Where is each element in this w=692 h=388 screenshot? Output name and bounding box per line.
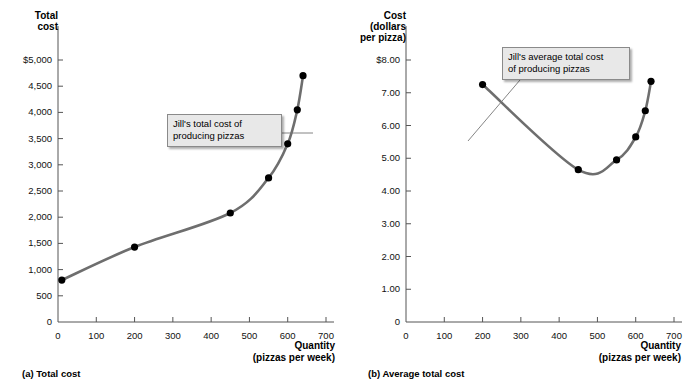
- y-tick-label: $8.00: [354, 54, 400, 65]
- y-tick-label: 2,500: [6, 185, 52, 196]
- panel-average-total-cost: Cost (dollars per pizza) Quantity (pizza…: [346, 0, 692, 388]
- x-tick-label: 400: [539, 330, 579, 341]
- x-axis-title-quantity-a: Quantity (pizzas per week): [180, 340, 335, 364]
- x-tick-label: 0: [38, 330, 78, 341]
- y-tick-label: 3.00: [354, 218, 400, 229]
- x-tick-label: 300: [153, 330, 193, 341]
- x-tick-label: 600: [616, 330, 656, 341]
- y-tick-label: 1.00: [354, 283, 400, 294]
- x-tick-label: 400: [191, 330, 231, 341]
- y-axis-title-cost: Cost (dollars per pizza): [346, 10, 406, 43]
- callout-average-total-cost: Jill's average total cost of producing p…: [502, 47, 630, 80]
- y-tick-label: 6.00: [354, 120, 400, 131]
- y-tick-label: 3,500: [6, 133, 52, 144]
- y-tick-label: 5.00: [354, 152, 400, 163]
- x-tick-label: 700: [306, 330, 346, 341]
- y-tick-label: 2,000: [6, 211, 52, 222]
- subcaption-average-total-cost: (b) Average total cost: [368, 368, 464, 379]
- x-tick-label: 300: [501, 330, 541, 341]
- y-tick-label: 4.00: [354, 185, 400, 196]
- x-tick-label: 200: [115, 330, 155, 341]
- y-tick-label: 1,500: [6, 237, 52, 248]
- y-tick-label: 4,000: [6, 106, 52, 117]
- subcaption-total-cost: (a) Total cost: [22, 368, 80, 379]
- y-tick-label: 0: [354, 316, 400, 327]
- y-axis-title-total-cost: Total cost: [2, 10, 58, 32]
- y-tick-label: 7.00: [354, 87, 400, 98]
- x-tick-label: 500: [229, 330, 269, 341]
- x-tick-label: 500: [577, 330, 617, 341]
- x-axis-title-quantity-b: Quantity (pizzas per week): [526, 340, 681, 364]
- x-tick-label: 200: [463, 330, 503, 341]
- y-tick-label: 3,000: [6, 159, 52, 170]
- x-tick-label: 600: [268, 330, 308, 341]
- y-tick-label: 0: [6, 316, 52, 327]
- x-tick-label: 100: [424, 330, 464, 341]
- y-tick-label: 4,500: [6, 80, 52, 91]
- x-tick-label: 700: [654, 330, 692, 341]
- y-tick-label: 500: [6, 290, 52, 301]
- y-tick-label: $5,000: [6, 54, 52, 65]
- panel-total-cost: Total cost Quantity (pizzas per week) Ji…: [0, 0, 346, 388]
- callout-total-cost: Jill's total cost of producing pizzas: [167, 114, 282, 147]
- y-tick-label: 2.00: [354, 251, 400, 262]
- y-tick-label: 1,000: [6, 264, 52, 275]
- x-tick-label: 100: [76, 330, 116, 341]
- x-tick-label: 0: [386, 330, 426, 341]
